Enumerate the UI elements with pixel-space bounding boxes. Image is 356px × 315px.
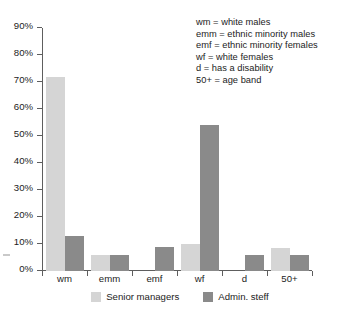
chart-legend: Senior managersAdmin. steff (42, 291, 318, 302)
legend-label: Admin. steff (218, 291, 268, 302)
legend-item-0[interactable]: Senior managers (91, 291, 179, 302)
category-label-emm: emm (87, 273, 132, 284)
key-line-wm: wm = white males (196, 17, 354, 29)
y-tick-label: 50% (14, 128, 33, 139)
category-label-wf: wf (177, 273, 222, 284)
y-tick-label: 60% (14, 101, 33, 112)
bar-emf-series-1[interactable] (155, 247, 174, 271)
y-tick-label: 0% (19, 263, 33, 274)
bar-emm-series-0[interactable] (91, 255, 110, 271)
bar-emm-series-1[interactable] (110, 255, 129, 271)
legend-item-1[interactable]: Admin. steff (203, 291, 268, 302)
bars-layer (42, 28, 312, 271)
y-tick-label: 10% (14, 236, 33, 247)
y-tick-label: 20% (14, 209, 33, 220)
bar-wf-series-0[interactable] (181, 244, 200, 271)
bar-wf-series-1[interactable] (200, 125, 219, 271)
category-label-emf: emf (132, 273, 177, 284)
category-label-wm: wm (42, 273, 87, 284)
y-tick-label: 90% (14, 20, 33, 31)
bar-wm-series-1[interactable] (65, 236, 84, 271)
y-tick-label: 40% (14, 155, 33, 166)
bar-d-series-1[interactable] (245, 255, 264, 271)
legend-swatch-icon (203, 292, 213, 302)
category-label-50+: 50+ (267, 273, 312, 284)
y-tick-label: 80% (14, 47, 33, 58)
legend-label: Senior managers (106, 291, 179, 302)
bar-50+-series-0[interactable] (271, 248, 290, 271)
legend-swatch-icon (91, 292, 101, 302)
x-tick (312, 271, 313, 276)
bar-50+-series-1[interactable] (290, 255, 309, 271)
scan-artifact (3, 254, 10, 256)
x-axis-category-labels: wmemmemfwfd50+ (42, 273, 312, 287)
bar-chart: wm = white males emm = ethnic minority m… (0, 0, 356, 315)
category-label-d: d (222, 273, 267, 284)
y-tick-label: 70% (14, 74, 33, 85)
y-tick-label: 30% (14, 182, 33, 193)
bar-wm-series-0[interactable] (46, 77, 65, 271)
plot-area: 0%10%20%30%40%50%60%70%80%90% (42, 28, 312, 271)
